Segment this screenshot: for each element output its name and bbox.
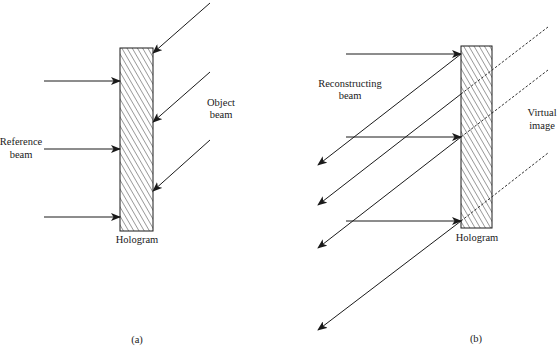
- reconstructing-beam-label-line2: beam: [339, 90, 362, 101]
- virtual-image-label-line2: image: [529, 120, 555, 131]
- diffracted-beam-arrow: [318, 94, 461, 205]
- diffracted-beam-arrow: [318, 221, 461, 330]
- reconstructing-beam-label-line1: Reconstructing: [318, 78, 382, 89]
- hologram-plate-b: [461, 46, 492, 228]
- panel-b: Reconstructing beam Virtual image Hologr…: [318, 27, 557, 345]
- hologram-label-b: Hologram: [456, 232, 499, 243]
- object-beam-label-line2: beam: [210, 109, 233, 120]
- caption-a: (a): [131, 334, 143, 346]
- hologram-diagram: Reference beam Object beam Hologram (a) …: [0, 0, 560, 350]
- object-beam-arrow: [153, 72, 210, 122]
- hologram-label-a: Hologram: [116, 234, 159, 245]
- hologram-plate-a: [120, 48, 153, 231]
- object-beam-arrows: [153, 3, 210, 191]
- virtual-image-label-line1: Virtual: [527, 107, 556, 118]
- caption-b: (b): [470, 333, 483, 345]
- object-beam-arrow: [153, 140, 210, 191]
- panel-a: Reference beam Object beam Hologram (a): [0, 3, 235, 346]
- diffracted-beam-arrow: [318, 54, 461, 165]
- object-beam-arrow: [153, 3, 210, 53]
- object-beam-label-line1: Object: [207, 97, 235, 108]
- reference-beam-label-line1: Reference: [0, 136, 43, 147]
- diffracted-beam-arrow: [318, 137, 461, 248]
- reference-beam-label-line2: beam: [10, 149, 33, 160]
- reference-beam-arrows: [44, 81, 120, 217]
